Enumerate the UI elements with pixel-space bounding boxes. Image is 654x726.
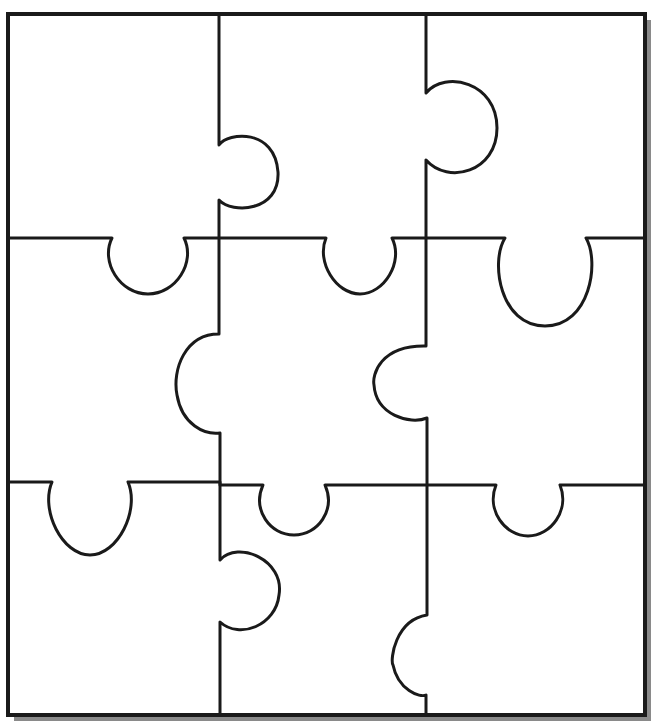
puzzle-canvas	[0, 0, 654, 726]
jigsaw-puzzle-diagram	[0, 0, 654, 726]
cropped-title-fragment	[300, 0, 420, 4]
puzzle-board	[8, 14, 645, 715]
